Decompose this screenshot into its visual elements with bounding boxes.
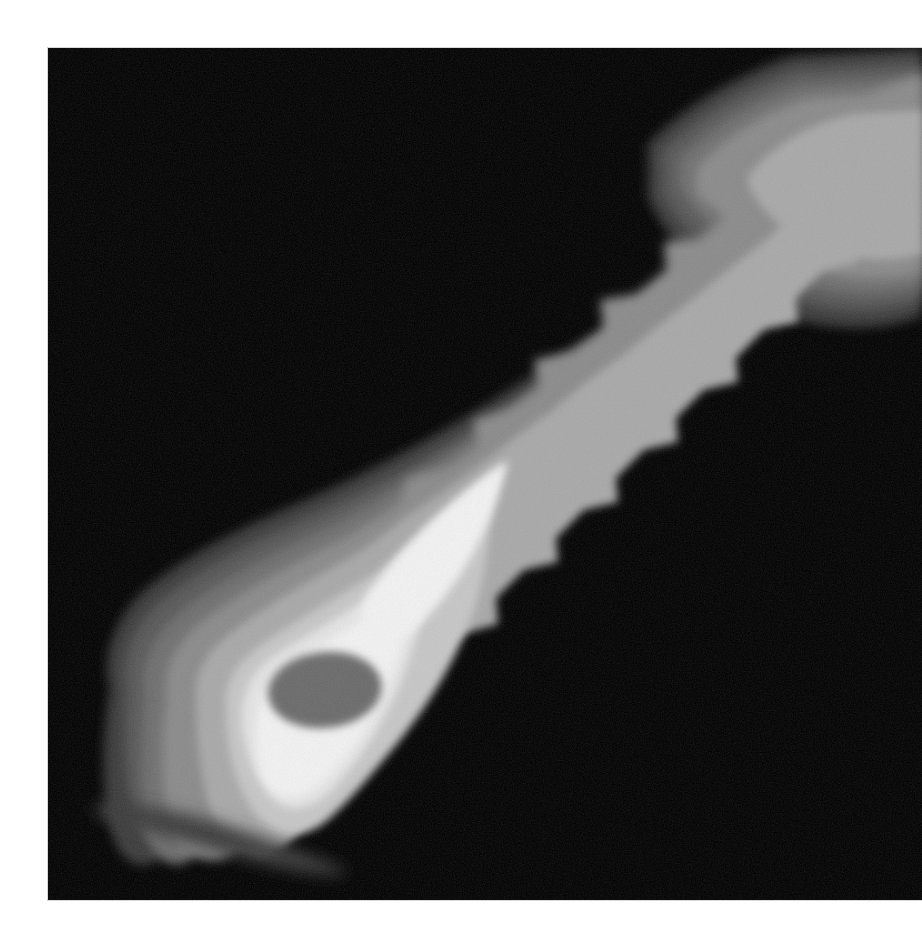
figure-alt-text: Grayscale contour-banded image of an ast… (0, 16, 1, 17)
halftone-grain-overlay (48, 48, 922, 900)
intensity-map-canvas (48, 48, 922, 900)
figure-root: Radio jet intensity map Grayscale contou… (0, 0, 922, 950)
figure-title: Radio jet intensity map (0, 21, 1, 22)
plot-panel (48, 48, 922, 900)
